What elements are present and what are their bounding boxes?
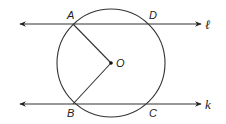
- label-d: D: [149, 9, 157, 21]
- label-a: A: [66, 9, 74, 21]
- label-c: C: [149, 107, 157, 119]
- center-point-o: [109, 61, 113, 65]
- segment-ob: [73, 63, 111, 104]
- label-line-k: k: [205, 97, 211, 112]
- circle-parallel-lines-diagram: A D B C O ℓ k: [0, 0, 226, 124]
- label-line-l: ℓ: [205, 17, 211, 32]
- segment-oa: [73, 24, 111, 63]
- label-b: B: [67, 107, 74, 119]
- label-o: O: [116, 57, 125, 69]
